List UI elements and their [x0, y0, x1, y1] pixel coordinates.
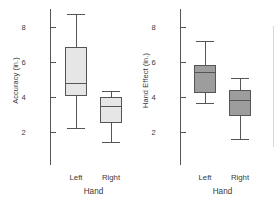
box-hand-effect-right-rect: [230, 91, 251, 116]
boxplot-figure: 2468Accuracy (in.)LeftRightHand2468Hand …: [0, 0, 276, 212]
y-tick-label-accuracy-2: 6: [21, 58, 25, 67]
x-category-label-hand-effect-left: Left: [198, 173, 212, 182]
y-tick-label-hand-effect-0: 2: [151, 128, 155, 137]
box-accuracy-right-rect: [101, 98, 122, 123]
y-tick-label-accuracy-3: 8: [21, 23, 25, 32]
x-axis-title-accuracy: Hand: [84, 187, 104, 196]
box-hand-effect-left-rect: [195, 66, 216, 93]
y-tick-label-hand-effect-1: 4: [151, 93, 155, 102]
boxplot-svg: 2468Accuracy (in.)LeftRightHand2468Hand …: [0, 0, 276, 212]
y-tick-label-hand-effect-2: 6: [151, 58, 155, 67]
x-axis-title-hand-effect: Hand: [213, 187, 233, 196]
x-category-label-hand-effect-right: Right: [231, 173, 250, 182]
box-accuracy-left-rect: [66, 47, 87, 95]
x-category-label-accuracy-right: Right: [102, 173, 121, 182]
x-category-label-accuracy-left: Left: [69, 173, 83, 182]
y-tick-label-accuracy-1: 4: [21, 93, 25, 102]
y-tick-label-accuracy-0: 2: [21, 128, 25, 137]
y-axis-title-hand-effect: Hand Effect (in.): [141, 53, 150, 108]
y-tick-label-hand-effect-3: 8: [151, 23, 155, 32]
y-axis-title-accuracy: Accuracy (in.): [11, 57, 20, 104]
